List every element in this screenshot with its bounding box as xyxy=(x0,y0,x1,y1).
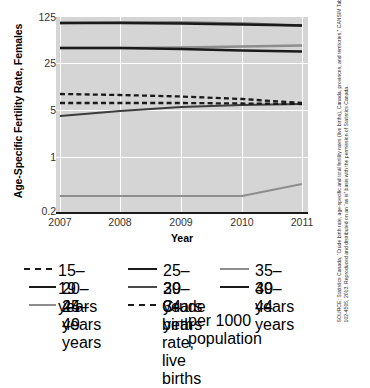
y-tick-label: 25 xyxy=(10,57,56,69)
series-line-15-19 xyxy=(60,94,302,103)
series-line-20-24 xyxy=(60,48,302,52)
chart-legend: 15–19 years 20–24 years 45–49 years 25–2… xyxy=(24,260,310,318)
y-tick-label: 1 xyxy=(10,151,56,163)
x-axis-line xyxy=(56,212,308,214)
legend-swatch-solid-icon xyxy=(128,286,157,288)
legend-label-continued: per 1000 population xyxy=(188,312,262,348)
series-line-30-34 xyxy=(60,104,302,116)
y-tick-label: 125 xyxy=(10,11,56,23)
x-tick-label: 2010 xyxy=(219,216,265,228)
series-line-45-49 xyxy=(60,184,302,196)
legend-swatch-dashed-icon xyxy=(128,304,156,306)
legend-swatch-dashed-icon xyxy=(24,268,52,270)
x-axis-title: Year xyxy=(56,232,308,244)
x-tick-label: 2008 xyxy=(97,216,143,228)
legend-label: 45–49 years xyxy=(62,298,101,352)
legend-swatch-solid-icon xyxy=(220,286,249,288)
y-tick-label: 5 xyxy=(10,104,56,116)
x-tick-label: 2011 xyxy=(279,216,325,228)
series-line-crude-birth-rate xyxy=(60,103,302,104)
legend-swatch-solid-icon xyxy=(220,268,249,270)
x-tick-label: 2007 xyxy=(37,216,83,228)
data-lines xyxy=(56,16,308,213)
legend-swatch-solid-icon xyxy=(128,268,157,270)
source-note: SOURCE: Statistics Canada, “Crude birth … xyxy=(336,0,351,322)
legend-swatch-solid-icon xyxy=(29,304,56,306)
x-tick-label: 2009 xyxy=(158,216,204,228)
legend-swatch-solid-icon xyxy=(29,286,56,288)
